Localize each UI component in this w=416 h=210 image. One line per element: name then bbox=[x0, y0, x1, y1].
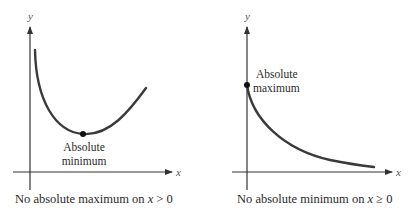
absolute-maximum-point bbox=[244, 82, 250, 88]
left-caption-prefix: No absolute maximum on bbox=[15, 192, 148, 206]
right-caption-relation: ≥ 0 bbox=[373, 192, 392, 206]
right-caption-prefix: No absolute minimum on bbox=[237, 192, 368, 206]
right-annotation-line2: maximum bbox=[253, 82, 300, 94]
right-graph: y x Absolute maximum No absolute minimum… bbox=[232, 10, 401, 206]
left-x-axis-label: x bbox=[175, 166, 181, 178]
absolute-minimum-point bbox=[80, 131, 86, 137]
left-curve bbox=[35, 50, 146, 134]
left-y-axis-label: y bbox=[27, 10, 33, 22]
right-curve bbox=[247, 85, 374, 167]
left-caption-relation: > 0 bbox=[153, 192, 173, 206]
left-annotation-line1: Absolute bbox=[63, 141, 105, 153]
right-x-axis-label: x bbox=[395, 166, 401, 178]
right-y-axis-label: y bbox=[244, 10, 250, 22]
left-annotation-line2: minimum bbox=[62, 155, 107, 167]
extrema-diagram: y x Absolute minimum No absolute maximum… bbox=[0, 0, 416, 210]
right-annotation-line1: Absolute bbox=[256, 68, 298, 80]
right-caption: No absolute minimum on x ≥ 0 bbox=[237, 192, 393, 206]
left-graph: y x Absolute minimum No absolute maximum… bbox=[13, 10, 181, 206]
left-caption: No absolute maximum on x > 0 bbox=[15, 192, 173, 206]
